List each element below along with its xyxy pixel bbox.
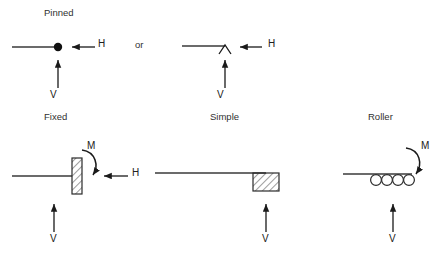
roller-support: [343, 148, 420, 232]
simple-hatched-block: [253, 173, 279, 191]
pinned-knife-edge-support: [182, 45, 262, 88]
roller-circle: [382, 175, 393, 186]
pinned-node-dot: [54, 43, 62, 51]
pinned-dot-support: [12, 43, 95, 88]
support-types-diagram: Pinned or Fixed Simple Roller H V H V M …: [0, 0, 446, 257]
roller-circle: [371, 175, 382, 186]
fixed-hatched-wall: [72, 158, 82, 194]
roller-circle: [393, 175, 404, 186]
roller-circle: [404, 175, 415, 186]
simple-support: [155, 173, 279, 232]
fixed-moment-arrow: [82, 150, 96, 175]
fixed-support: [12, 150, 128, 232]
roller-moment-arrow: [406, 148, 420, 174]
diagram-graphics: [0, 0, 446, 257]
